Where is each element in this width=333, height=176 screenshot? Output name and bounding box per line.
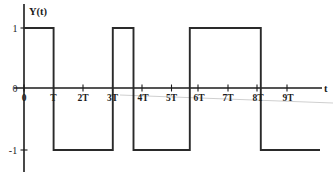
ytick-label-minus1: -1 — [9, 145, 17, 156]
xtick-label-1T: T — [50, 93, 57, 103]
x-axis-title: t — [324, 83, 328, 94]
y-axis-title: Y(t) — [29, 6, 48, 18]
xtick-label-2T: 2T — [77, 93, 89, 103]
ytick-label-1: 1 — [13, 23, 18, 34]
xtick-label-3T: 3T — [107, 93, 119, 103]
plot-canvas: 0 T 2T 3T 4T 5T 6T 7T 8T 9T 1 0 -1 Y(t) … — [0, 0, 333, 176]
xtick-label-0: 0 — [22, 93, 27, 103]
xtick-label-7T: 7T — [222, 93, 234, 103]
xtick-label-4T: 4T — [137, 93, 149, 103]
xtick-label-5T: 5T — [166, 93, 178, 103]
square-wave-figure: 0 T 2T 3T 4T 5T 6T 7T 8T 9T 1 0 -1 Y(t) … — [0, 0, 333, 176]
xtick-label-6T: 6T — [193, 93, 205, 103]
xtick-label-8T: 8T — [252, 93, 264, 103]
xtick-label-9T: 9T — [282, 93, 294, 103]
ytick-label-0: 0 — [13, 83, 18, 94]
